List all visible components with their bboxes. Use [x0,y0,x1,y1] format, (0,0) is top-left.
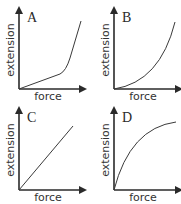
panel-a: A force extension [4,10,83,103]
y-axis-label: extension [99,123,112,177]
curve-d [114,122,176,190]
x-axis-label: force [129,90,157,103]
x-axis-label: force [34,191,62,204]
panel-letter: B [122,10,131,25]
y-axis-label: extension [4,123,17,177]
panel-letter: C [27,110,36,125]
panel-letter: A [27,10,38,25]
curve-c [19,126,73,190]
panel-letter: D [122,110,132,125]
curve-a [19,21,81,89]
y-axis-label: extension [99,23,112,77]
y-axis-label: extension [4,23,17,77]
force-extension-figure: A force extension B force extension C fo… [0,0,181,204]
panel-c: C force extension [4,110,83,204]
x-axis-label: force [129,191,157,204]
panel-d: D force extension [99,110,179,204]
x-axis-label: force [34,90,62,103]
panel-b: B force extension [99,10,179,103]
curve-b [114,22,175,89]
